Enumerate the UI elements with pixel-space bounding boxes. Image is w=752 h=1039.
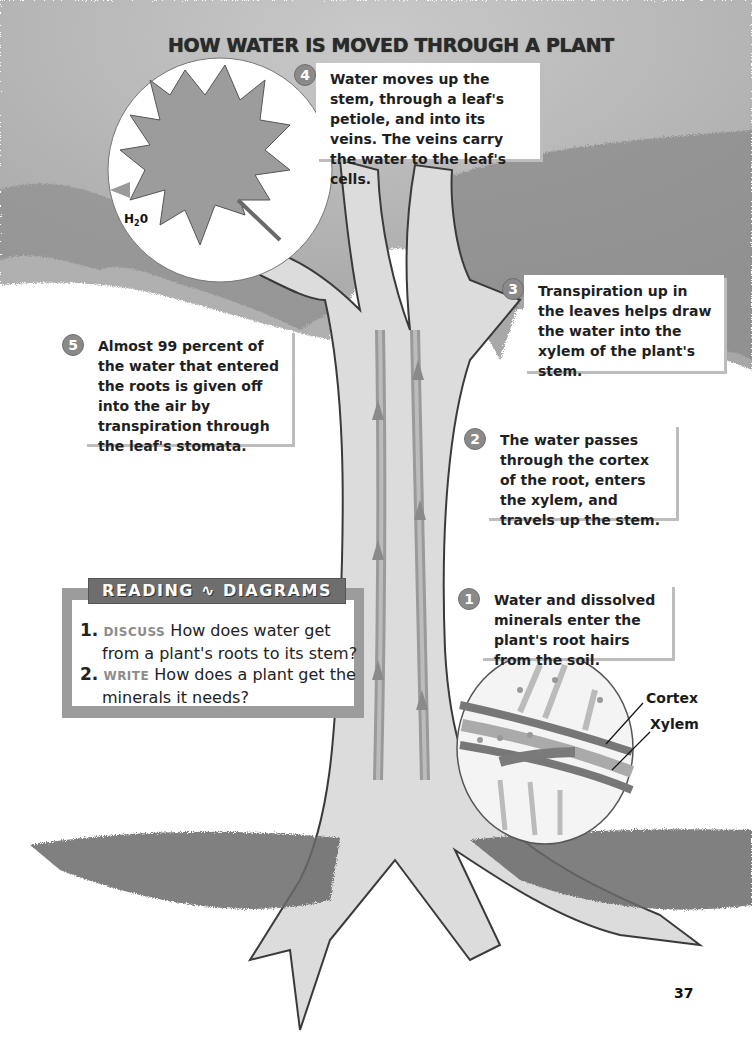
step-2-callout: The water passes through the cortex of t… [486, 424, 676, 518]
step-5-number: 5 [62, 334, 84, 356]
step-3-callout: Transpiration up in the leaves helps dra… [524, 275, 724, 371]
xylem-label: Xylem [650, 716, 699, 732]
step-4-number: 4 [294, 64, 316, 86]
root-inset [457, 652, 650, 844]
reading-diagrams-heading: READING ∿ DIAGRAMS [88, 578, 346, 604]
leaf-inset [108, 58, 332, 282]
step-2-number: 2 [464, 428, 486, 450]
h2o-label: H20 [124, 212, 148, 228]
page-title: HOW WATER IS MOVED THROUGH A PLANT [168, 34, 638, 56]
question-2: 2. WRITE How does a plant get the minera… [80, 664, 356, 708]
step-1-number: 1 [458, 588, 480, 610]
cortex-label: Cortex [646, 690, 698, 706]
page-number: 37 [674, 985, 693, 1001]
step-3-number: 3 [502, 278, 524, 300]
question-1: 1. DISCUSS How does water get from a pla… [80, 620, 357, 664]
step-4-callout: Water moves up the stem, through a leaf'… [316, 63, 540, 159]
step-5-callout: Almost 99 percent of the water that ente… [84, 330, 292, 444]
step-1-callout: Water and dissolved minerals enter the p… [480, 584, 672, 658]
graph-icon: ∿ [201, 581, 216, 600]
